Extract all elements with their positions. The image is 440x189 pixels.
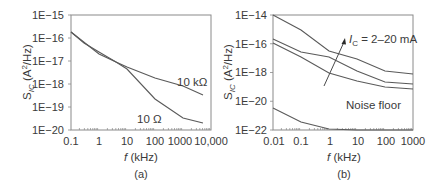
x-tick-label: 100 [377, 135, 395, 147]
label-noise-floor: Noise floor [346, 99, 401, 111]
x-tick-label: 1 [96, 135, 102, 147]
label-10-ohm: 10 Ω [137, 113, 162, 125]
x-tick-label: 1000 [401, 135, 425, 147]
y-tick-label: 1E−17 [32, 55, 64, 67]
x-tick-label: 100 [146, 135, 164, 147]
y-tick-label: 1E−20 [235, 95, 267, 107]
panel-b: 1E−14 1E−16 1E−18 1E−20 1E−22 0.01 0.1 1… [221, 9, 425, 180]
x-tick-label: 10 [121, 135, 133, 147]
x-tick-label: 10,000 [194, 135, 228, 147]
x-tick-label: 1 [327, 135, 333, 147]
y-tick-label: 1E−19 [32, 101, 64, 113]
y-tick-label: 1E−18 [235, 66, 267, 78]
x-tick-label: 10 [352, 135, 364, 147]
y-tick-label: 1E−18 [32, 78, 64, 90]
y-tick-label: 1E−16 [235, 38, 267, 50]
figure: 1E−15 1E−16 1E−17 1E−18 1E−19 1E−20 0.1 … [0, 0, 440, 189]
caption-a: (a) [134, 168, 147, 180]
y-tick-label: 1E−20 [32, 124, 64, 136]
caption-b: (b) [337, 168, 350, 180]
x-tick-label: 0.1 [63, 135, 78, 147]
plot-b-x-tick-labels: 0.01 0.1 1 10 100 1000 [263, 135, 425, 147]
x-tick-label: 0.01 [263, 135, 284, 147]
x-tick-label: 1000 [168, 135, 192, 147]
plot-b-x-axis-title: f (kHz) [327, 151, 361, 163]
series-noise-floor [273, 108, 413, 130]
y-tick-label: 1E−16 [32, 32, 64, 44]
plot-a-y-tick-labels: 1E−15 1E−16 1E−17 1E−18 1E−19 1E−20 [32, 9, 64, 136]
y-tick-label: 1E−22 [235, 124, 267, 136]
plot-a-y-axis-title: SIC (A2/Hz) [20, 44, 36, 100]
x-tick-label: 0.1 [293, 135, 308, 147]
label-ic-range: IC = 2–20 mA [349, 33, 417, 48]
plot-a-x-axis-title: f (kHz) [124, 151, 158, 163]
y-tick-label: 1E−15 [32, 9, 64, 21]
increasing-current-arrow-icon [324, 38, 346, 86]
label-10k-ohm: 10 kΩ [177, 76, 208, 88]
panel-a: 1E−15 1E−16 1E−17 1E−18 1E−19 1E−20 0.1 … [20, 9, 228, 180]
y-tick-label: 1E−14 [235, 9, 267, 21]
plot-b-y-tick-labels: 1E−14 1E−16 1E−18 1E−20 1E−22 [235, 9, 267, 136]
plot-a-x-tick-labels: 0.1 1 10 100 1000 10,000 [63, 135, 227, 147]
